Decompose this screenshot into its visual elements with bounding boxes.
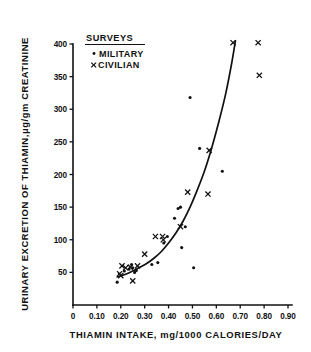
data-point-military	[179, 206, 182, 209]
y-axis-title: URINARY EXCRETION OF THIAMIN,μg/gm CREAT…	[19, 37, 30, 311]
data-point-civilian	[256, 40, 261, 45]
x-tick-label: 0.70	[232, 312, 248, 321]
x-axis-title: THIAMIN INTAKE, mg/1000 CALORIES/DAY	[70, 329, 283, 340]
data-point-military	[173, 217, 176, 220]
x-tick-label: 0	[71, 312, 76, 321]
data-point-military	[221, 170, 224, 173]
x-tick-label: 0.20	[113, 312, 129, 321]
data-point-military	[156, 261, 159, 264]
x-tick-label: 0.40	[161, 312, 177, 321]
x-axis-tick-labels: 00.100.200.300.400.500.600.700.800.90	[71, 312, 297, 321]
x-tick-label: 0.30	[137, 312, 153, 321]
data-point-civilian	[257, 73, 262, 78]
data-point-military	[180, 246, 183, 249]
y-tick-label: 400	[54, 40, 68, 49]
y-tick-label: 200	[54, 171, 68, 180]
data-point-military	[189, 96, 192, 99]
y-tick-label: 150	[54, 203, 68, 212]
legend-dot-marker-icon	[93, 52, 96, 55]
y-tick-label: 350	[54, 73, 68, 82]
x-tick-label: 0.10	[89, 312, 105, 321]
y-tick-label: 50	[58, 268, 67, 277]
chart-figure: 50100150200250300350400 00.100.200.300.4…	[0, 0, 311, 352]
data-point-military	[184, 225, 187, 228]
x-tick-label: 0.80	[256, 312, 272, 321]
data-point-military	[135, 269, 138, 272]
x-tick-label: 0.50	[185, 312, 201, 321]
fitted-trend-curve	[117, 41, 235, 277]
data-point-civilian	[185, 190, 190, 195]
y-axis-tick-labels: 50100150200250300350400	[54, 40, 68, 277]
series-civilian-points	[117, 40, 262, 283]
data-point-civilian	[130, 278, 135, 283]
data-point-military	[150, 263, 153, 266]
legend-cross-marker-icon	[91, 63, 96, 68]
data-point-civilian	[153, 234, 158, 239]
y-tick-label: 100	[54, 236, 68, 245]
data-point-military	[192, 266, 195, 269]
legend: SURVEYS MILITARY CIVILIAN	[85, 33, 145, 70]
scatter-plot-svg: 50100150200250300350400 00.100.200.300.4…	[0, 0, 311, 352]
data-point-civilian	[142, 252, 147, 257]
legend-item-label-civilian: CIVILIAN	[98, 60, 140, 70]
data-point-military	[198, 147, 201, 150]
x-tick-label: 0.60	[209, 312, 225, 321]
y-tick-label: 300	[54, 105, 68, 114]
legend-title: SURVEYS	[86, 33, 133, 43]
data-point-civilian	[205, 191, 210, 196]
y-tick-label: 250	[54, 138, 68, 147]
data-point-military	[116, 281, 119, 284]
legend-item-label-military: MILITARY	[99, 49, 144, 59]
series-military-points	[116, 96, 224, 284]
x-tick-label: 0.90	[280, 312, 296, 321]
